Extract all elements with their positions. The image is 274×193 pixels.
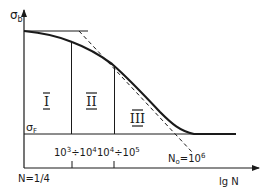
tick-label-1: 103÷104 [54,146,97,158]
knee-label: No=106 [168,152,206,166]
region-label-2: II [86,93,97,109]
svg-text:I: I [44,94,49,109]
svg-text:III: III [130,111,145,126]
tick-label-2: 104÷105 [97,146,140,158]
fatigue-diagram: σb σF I II III 103÷104 104÷105 No=106 N=… [0,0,274,193]
x-axis-label: lg N [219,176,239,187]
y-axis-label: σb [10,8,23,24]
svg-text:II: II [86,94,96,109]
origin-label: N=1/4 [18,173,50,184]
region-label-3: III [130,110,145,126]
region-label-1: I [43,93,50,109]
fatigue-limit-label: σF [26,121,37,135]
